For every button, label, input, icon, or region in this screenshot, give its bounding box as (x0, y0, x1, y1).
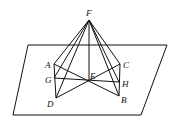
label-B: B (121, 95, 127, 105)
label-E: E (89, 71, 96, 81)
label-D: D (46, 99, 54, 109)
segment-FB (89, 20, 119, 96)
label-G: G (45, 75, 52, 85)
geometry-diagram: F A G D E C H B (0, 0, 179, 125)
label-C: C (123, 60, 130, 70)
segment-FG (54, 20, 89, 78)
label-A: A (44, 60, 51, 70)
segment-AD (54, 64, 56, 98)
label-H: H (121, 79, 129, 89)
segment-FD (56, 20, 89, 98)
label-F: F (85, 8, 92, 18)
segment-FC (89, 20, 120, 64)
segment-FA (54, 20, 89, 64)
segment-CB (119, 64, 120, 96)
